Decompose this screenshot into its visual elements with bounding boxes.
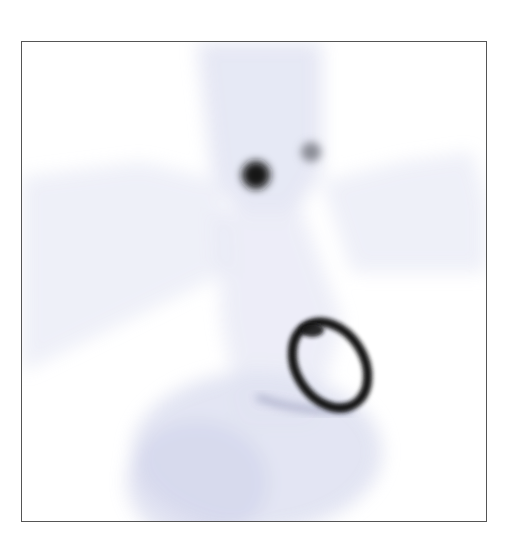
scan-image: [22, 42, 486, 521]
scan-image-frame: [21, 41, 487, 522]
ring-top-thickening: [300, 323, 324, 337]
soft-tissue-outline: [22, 42, 486, 521]
neck-hot-spot-right: [301, 142, 321, 162]
neck-hot-spot-left: [242, 161, 270, 189]
